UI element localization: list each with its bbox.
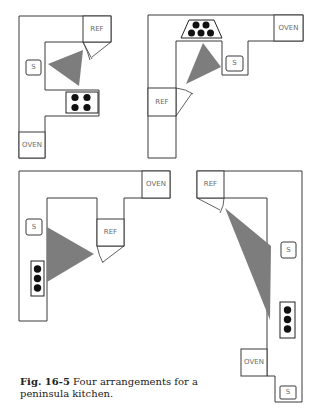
- burner-icon: [83, 94, 90, 101]
- refrigerator: REF: [148, 88, 193, 116]
- sink: S: [226, 56, 243, 71]
- refrigerator-label: REF: [90, 25, 103, 33]
- burner-icon: [71, 94, 78, 101]
- oven-label: OVEN: [244, 358, 264, 366]
- sink-lower: S: [280, 386, 296, 399]
- work-triangle: [186, 43, 221, 84]
- oven: OVEN: [241, 349, 267, 376]
- burner-icon: [207, 30, 214, 37]
- sink: S: [26, 219, 42, 235]
- figure-number: Fig. 16-5: [20, 376, 70, 387]
- oven-label: OVEN: [22, 141, 42, 149]
- burner-icon: [34, 275, 41, 282]
- door-swing-icon: [176, 88, 193, 116]
- oven-label: OVEN: [146, 180, 166, 188]
- work-triangle: [225, 208, 271, 320]
- door-swing-icon: [83, 42, 111, 60]
- burner-icon: [284, 306, 291, 313]
- refrigerator-label: REF: [204, 180, 217, 188]
- burner-icon: [34, 265, 41, 272]
- oven: OVEN: [274, 15, 303, 41]
- cooktop: [66, 92, 98, 113]
- arrangement-3: OVEN REF S: [19, 171, 170, 321]
- sink-label: S: [31, 63, 36, 71]
- sink-label: S: [32, 223, 37, 231]
- sink-upper: S: [281, 242, 296, 258]
- cooktop: [31, 261, 44, 296]
- peninsula-kitchen-figure: REF OVEN S OVEN: [0, 0, 320, 409]
- oven-label: OVEN: [279, 24, 299, 32]
- refrigerator: REF: [83, 16, 111, 60]
- burner-icon: [284, 316, 291, 323]
- arrangement-4: REF S OVEN S: [197, 171, 302, 402]
- refrigerator-label: REF: [155, 98, 168, 106]
- oven: OVEN: [142, 171, 170, 198]
- refrigerator: REF: [97, 219, 124, 263]
- arrangement-2: OVEN REF S: [148, 15, 303, 158]
- burner-icon: [34, 284, 41, 291]
- cooktop: [181, 20, 222, 38]
- sink-label: S: [232, 59, 237, 67]
- sink-label: S: [286, 388, 291, 396]
- sink: S: [26, 60, 41, 75]
- cooktop: [280, 302, 295, 338]
- burner-icon: [83, 104, 90, 111]
- burner-icon: [71, 104, 78, 111]
- arrangement-1: REF OVEN S: [19, 16, 111, 158]
- burner-icon: [198, 30, 205, 37]
- door-swing-icon: [197, 198, 224, 213]
- burner-icon: [193, 22, 200, 29]
- work-triangle: [48, 50, 83, 86]
- burner-icon: [203, 22, 210, 29]
- door-swing-icon: [97, 246, 124, 263]
- burner-icon: [188, 30, 195, 37]
- figure-caption: Fig. 16-5 Four arrangements for a penins…: [20, 376, 220, 400]
- refrigerator-label: REF: [104, 228, 117, 236]
- burner-icon: [284, 325, 291, 332]
- oven: OVEN: [19, 132, 45, 158]
- refrigerator: REF: [197, 171, 224, 213]
- sink-label: S: [286, 246, 291, 254]
- work-triangle: [47, 227, 94, 282]
